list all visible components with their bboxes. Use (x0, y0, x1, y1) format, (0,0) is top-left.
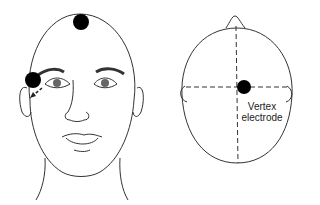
canthus-electrode-dot (25, 72, 41, 88)
arrow-head-icon (30, 92, 36, 98)
top-head-figure (181, 16, 292, 163)
right-ear-top (286, 86, 292, 102)
vertex-electrode-top-dot (237, 80, 251, 94)
nose-top (226, 16, 245, 28)
label-line-1: Vertex (238, 101, 286, 112)
front-head-figure (20, 14, 144, 200)
label-line-2: electrode (238, 112, 286, 123)
vertex-electrode-dot (73, 14, 89, 30)
vertex-electrode-label: Vertex electrode (238, 101, 286, 123)
